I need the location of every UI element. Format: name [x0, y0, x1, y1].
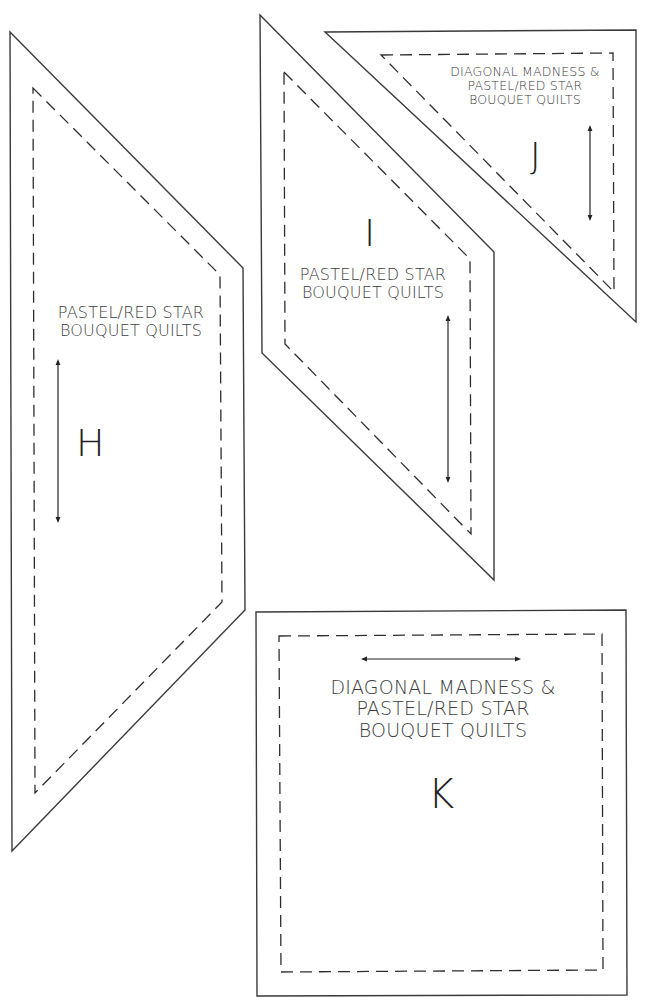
piece-i-letter: I [364, 214, 375, 252]
piece-k-label: DIAGONAL MADNESS & PASTEL/RED STAR BOUQU… [282, 677, 604, 741]
piece-j-label: DIAGONAL MADNESS & PASTEL/RED STAR BOUQU… [440, 65, 610, 107]
piece-h-label: PASTEL/RED STAR BOUQUET QUILTS [36, 304, 226, 340]
piece-i-label-line-1: PASTEL/RED STAR [288, 266, 458, 284]
piece-j-letter: J [530, 138, 541, 174]
piece-i-label: PASTEL/RED STAR BOUQUET QUILTS [288, 266, 458, 302]
piece-h-cut-line [10, 32, 245, 851]
piece-j-label-line-2: PASTEL/RED STAR [440, 79, 610, 93]
piece-h-letter: H [76, 424, 105, 462]
piece-h-seam-line [33, 88, 222, 793]
piece-k-label-line-1: DIAGONAL MADNESS & [282, 677, 604, 698]
piece-k-label-line-2: PASTEL/RED STAR [282, 698, 604, 719]
piece-h-template [10, 32, 245, 851]
pattern-sheet [0, 0, 660, 1004]
piece-k-letter: K [428, 774, 454, 814]
piece-i-label-line-2: BOUQUET QUILTS [288, 284, 458, 302]
piece-k-label-line-3: BOUQUET QUILTS [282, 720, 604, 741]
piece-j-label-line-3: BOUQUET QUILTS [440, 93, 610, 107]
piece-j-label-line-1: DIAGONAL MADNESS & [440, 65, 610, 79]
piece-h-label-line-1: PASTEL/RED STAR [36, 304, 226, 322]
piece-h-label-line-2: BOUQUET QUILTS [36, 322, 226, 340]
